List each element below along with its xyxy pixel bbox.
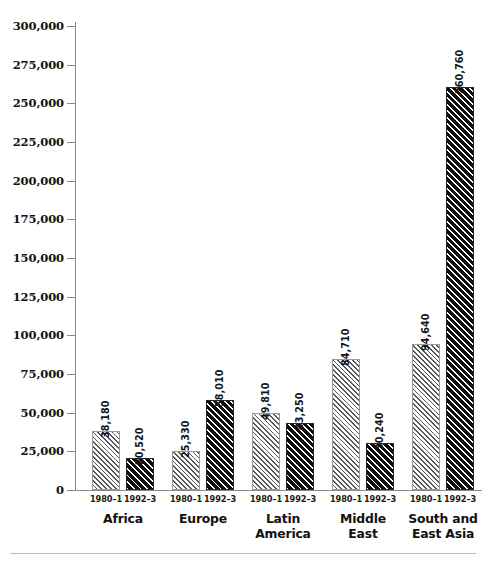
- y-axis-tick: [67, 490, 76, 491]
- category-label: Middle East: [318, 511, 408, 541]
- x-axis-line: [75, 490, 482, 491]
- x-axis-period-label: 1992–3: [120, 494, 160, 504]
- x-axis-period-label: 1992–3: [360, 494, 400, 504]
- bar-value-label: 84,710: [340, 328, 351, 366]
- plot-area: 025,00050,00075,000100,000125,000150,000…: [0, 0, 486, 564]
- bar: [412, 344, 440, 490]
- y-axis-tick-label: 300,000: [0, 19, 64, 33]
- bar: [206, 400, 234, 490]
- y-axis-tick-label: 100,000: [0, 328, 64, 342]
- bar-value-label: 25,330: [180, 420, 191, 458]
- bar-value-label: 30,240: [374, 413, 385, 451]
- y-axis-tick: [67, 413, 76, 414]
- y-axis-tick-label: 50,000: [0, 406, 64, 420]
- y-axis-tick: [67, 335, 76, 336]
- y-axis-tick: [67, 103, 76, 104]
- bar-value-label: 94,640: [420, 313, 431, 351]
- y-axis-tick: [67, 374, 76, 375]
- y-axis-tick: [67, 181, 76, 182]
- y-axis-line: [75, 22, 76, 491]
- y-axis-tick-label: 250,000: [0, 96, 64, 110]
- y-axis-tick: [67, 258, 76, 259]
- bar-value-label: 38,180: [100, 400, 111, 438]
- x-axis-period-label: 1992–3: [440, 494, 480, 504]
- bar-value-label: 43,250: [294, 392, 305, 430]
- y-axis-tick: [67, 219, 76, 220]
- y-axis-tick-label: 75,000: [0, 367, 64, 381]
- y-axis-tick: [67, 26, 76, 27]
- y-axis-tick-label: 25,000: [0, 444, 64, 458]
- bar: [92, 431, 120, 490]
- footer-divider: [10, 553, 476, 554]
- x-axis-period-label: 1992–3: [200, 494, 240, 504]
- y-axis-tick: [67, 297, 76, 298]
- y-axis-tick-label: 225,000: [0, 135, 64, 149]
- bar: [286, 423, 314, 490]
- bar-value-label: 49,810: [260, 382, 271, 420]
- category-label: Africa: [78, 511, 168, 526]
- grouped-bar-chart: 025,00050,00075,000100,000125,000150,000…: [0, 0, 486, 564]
- y-axis-tick-label: 125,000: [0, 290, 64, 304]
- category-label: Latin America: [238, 511, 328, 541]
- bar-value-label: 20,520: [134, 428, 145, 466]
- y-axis-tick: [67, 65, 76, 66]
- bar: [366, 443, 394, 490]
- bar: [252, 413, 280, 490]
- category-label: South and East Asia: [398, 511, 486, 541]
- y-axis-tick-label: 175,000: [0, 212, 64, 226]
- y-axis-tick: [67, 451, 76, 452]
- bar-value-label: 58,010: [214, 370, 225, 408]
- y-axis-tick-label: 275,000: [0, 58, 64, 72]
- category-label: Europe: [158, 511, 248, 526]
- bar: [332, 359, 360, 490]
- y-axis-tick-label: 150,000: [0, 251, 64, 265]
- y-axis-tick: [67, 142, 76, 143]
- y-axis-tick-label: 0: [0, 483, 64, 497]
- bar-value-label: 260,760: [454, 49, 465, 93]
- bar: [446, 87, 474, 490]
- x-axis-period-label: 1992–3: [280, 494, 320, 504]
- y-axis-tick-label: 200,000: [0, 174, 64, 188]
